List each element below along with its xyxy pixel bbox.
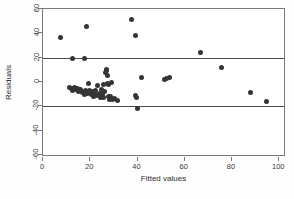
residual-plot-figure: Residuals 6040200-20-40-60 020406080100 … (0, 0, 294, 199)
data-point (219, 65, 224, 70)
data-point (70, 56, 75, 61)
data-point (135, 106, 140, 111)
plot-area (43, 9, 284, 155)
x-tick-label: 80 (227, 162, 235, 171)
x-tick-label: 40 (132, 162, 140, 171)
x-tick-mark (42, 157, 43, 161)
y-tick-label: 20 (32, 52, 41, 60)
data-point (133, 33, 138, 38)
data-point (86, 81, 91, 86)
data-point (115, 98, 120, 103)
data-point (58, 35, 63, 40)
y-tick-label: -20 (32, 100, 41, 111)
x-tick-mark (278, 157, 279, 161)
data-point (105, 73, 110, 78)
y-tick-label: 60 (32, 4, 41, 12)
x-tick-mark (137, 157, 138, 161)
data-point (167, 75, 172, 80)
y-axis: 6040200-20-40-60 (0, 8, 42, 156)
x-axis-title: Fitted values (42, 174, 285, 183)
reference-line (43, 58, 284, 59)
x-tick-mark (231, 157, 232, 161)
data-point (129, 17, 134, 22)
x-tick-label: 100 (272, 162, 285, 171)
data-point (264, 99, 269, 104)
x-tick-mark (89, 157, 90, 161)
y-tick-label: -60 (32, 149, 41, 160)
data-point (82, 56, 87, 61)
y-tick-label: -40 (32, 124, 41, 135)
y-tick-label: 40 (32, 28, 41, 36)
plot-frame (42, 8, 285, 156)
x-tick-label: 60 (180, 162, 188, 171)
reference-line (43, 106, 284, 107)
x-tick-mark (184, 157, 185, 161)
data-point (134, 95, 139, 100)
data-point (109, 80, 114, 85)
y-tick-label: 0 (32, 79, 41, 83)
data-point (248, 90, 253, 95)
data-point (198, 50, 203, 55)
data-point (104, 67, 109, 72)
x-tick-label: 20 (85, 162, 93, 171)
data-point (84, 24, 89, 29)
x-tick-label: 0 (40, 162, 44, 171)
data-point (139, 75, 144, 80)
